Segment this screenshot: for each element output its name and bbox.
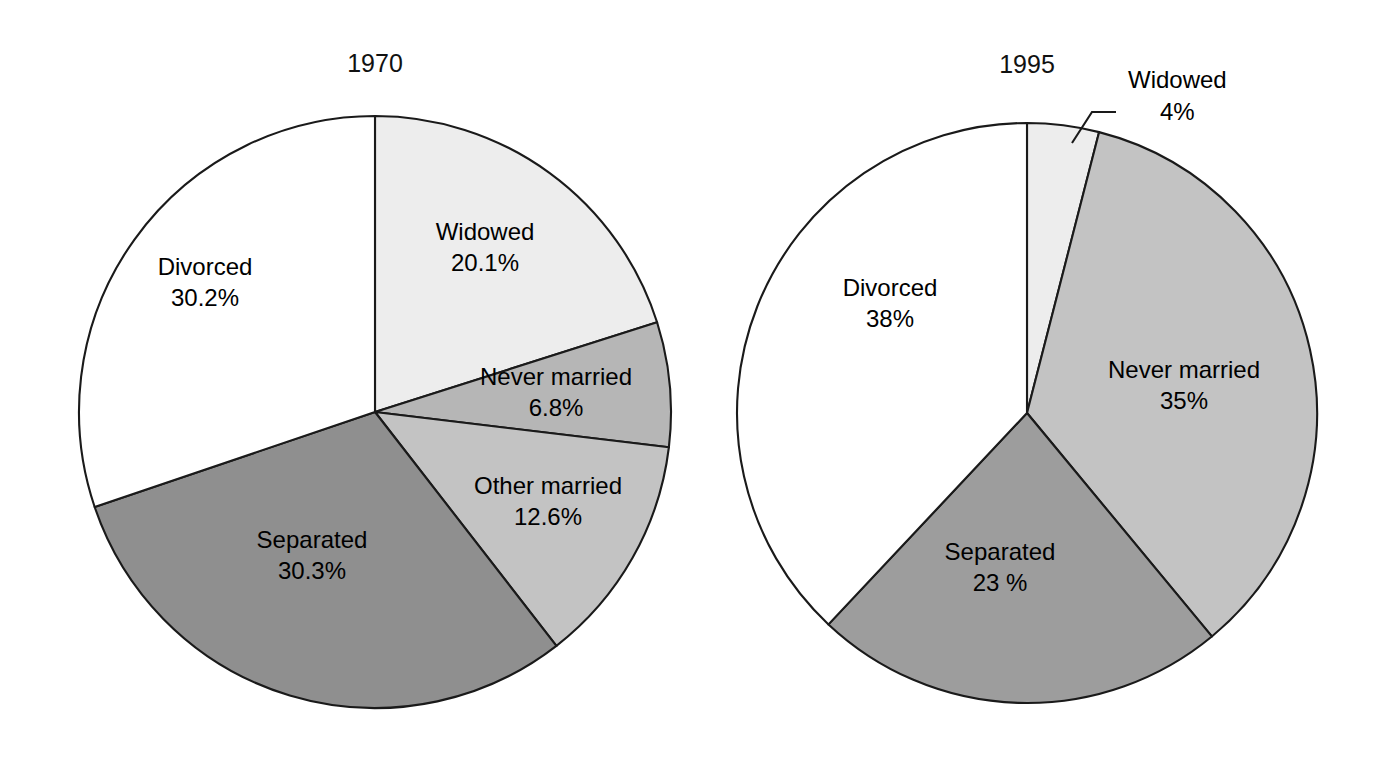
slice-label-never-married: Never married (480, 363, 632, 390)
pie-chart-1995: 1995 Never married35%Separated23 %Divorc… (737, 50, 1317, 703)
slice-value-other-married: 12.6% (514, 503, 582, 530)
pie-chart-figure: 1970 Widowed20.1%Never married6.8%Other … (0, 0, 1399, 772)
slice-label-separated: Separated (945, 538, 1056, 565)
slice-label-separated: Separated (257, 526, 368, 553)
widowed-callout-label: Widowed (1128, 66, 1227, 93)
slice-label-divorced: Divorced (158, 253, 253, 280)
slice-value-never-married: 6.8% (529, 394, 584, 421)
slice-label-widowed: Widowed (436, 218, 535, 245)
charts-canvas: 1970 Widowed20.1%Never married6.8%Other … (0, 0, 1399, 772)
pie-title-1970: 1970 (347, 49, 403, 77)
pie-slices-1995 (737, 123, 1317, 703)
slice-label-divorced: Divorced (843, 274, 938, 301)
pie-chart-1970: 1970 Widowed20.1%Never married6.8%Other … (79, 49, 671, 708)
widowed-callout-value: 4% (1160, 98, 1195, 125)
slice-value-divorced: 30.2% (171, 284, 239, 311)
slice-label-never-married: Never married (1108, 356, 1260, 383)
slice-value-separated: 30.3% (278, 557, 346, 584)
pie-title-1995: 1995 (999, 50, 1055, 78)
slice-value-widowed: 20.1% (451, 249, 519, 276)
slice-value-divorced: 38% (866, 305, 914, 332)
slice-label-other-married: Other married (474, 472, 622, 499)
slice-value-separated: 23 % (973, 569, 1028, 596)
slice-value-never-married: 35% (1160, 387, 1208, 414)
